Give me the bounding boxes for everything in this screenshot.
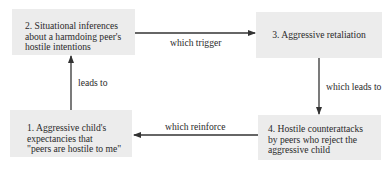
node-2-text: 2. Situational inferences about a harmdo… [25,21,121,53]
node-4-text: 4. Hostile counterattacks by peers who r… [268,124,363,156]
node-1-line-3: "peers are hostile to me" [27,144,121,155]
node-1-line-1: 1. Aggressive child's [27,123,121,134]
edge-label-leads-to: leads to [78,77,108,88]
node-1-text: 1. Aggressive child's expectancies that … [27,123,121,155]
node-child-expectancies: 1. Aggressive child's expectancies that … [10,110,132,157]
edge-label-which-trigger: which trigger [170,37,221,48]
node-aggressive-retaliation: 3. Aggressive retaliation [256,12,382,58]
node-3-line-1: 3. Aggressive retaliation [256,30,382,41]
node-4-line-1: 4. Hostile counterattacks [268,124,363,135]
node-3-text: 3. Aggressive retaliation [256,30,382,41]
node-2-line-3: hostile intentions [25,42,121,53]
edge-label-which-leads-to: which leads to [326,81,381,92]
edge-label-which-reinforce: which reinforce [165,121,225,132]
node-situational-inferences: 2. Situational inferences about a harmdo… [12,9,135,55]
node-2-line-1: 2. Situational inferences [25,21,121,32]
node-hostile-counterattacks: 4. Hostile counterattacks by peers who r… [258,115,381,160]
node-4-line-3: aggressive child [268,145,363,156]
